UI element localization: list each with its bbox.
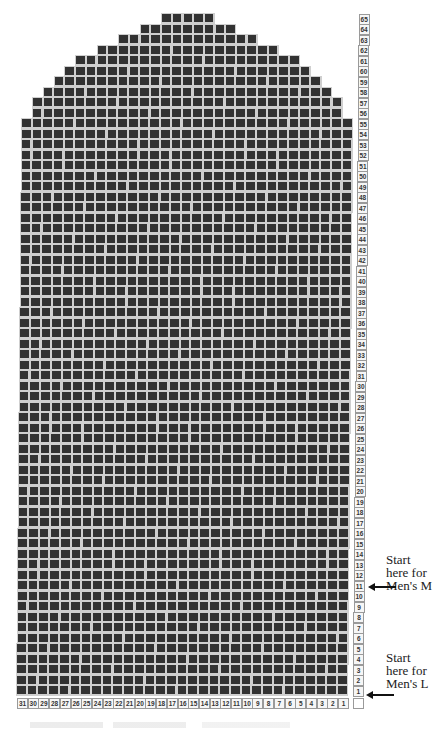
row-number-label: 51 <box>357 161 368 172</box>
stitch-cell <box>201 497 210 505</box>
stitch-cell <box>168 581 177 589</box>
stitch-cell <box>255 350 264 358</box>
stitch-cell <box>290 119 299 127</box>
stitch-cell <box>60 655 69 663</box>
stitch-cell <box>254 476 263 484</box>
stitch-cell <box>38 686 47 694</box>
stitch-cell <box>160 277 169 285</box>
stitch-cell <box>319 424 328 432</box>
stitch-cell <box>224 256 233 264</box>
stitch-cell <box>104 497 113 505</box>
row-number-label: 64 <box>359 24 370 35</box>
stitch-cell <box>182 172 191 180</box>
stitch-cell <box>97 151 106 159</box>
stitch-cell <box>253 655 262 663</box>
stitch-cell <box>244 382 253 390</box>
stitch-cell <box>39 623 48 631</box>
stitch-cell <box>191 382 200 390</box>
stitch-cell <box>162 35 171 43</box>
stitch-cell <box>119 56 128 64</box>
stitch-cell <box>329 508 338 516</box>
stitch-cell <box>168 602 177 610</box>
stitch-cell <box>173 14 182 22</box>
stitch-cell <box>128 287 137 295</box>
stitch-cell <box>125 592 134 600</box>
column-number-label: 14 <box>199 698 210 709</box>
stitch-cell <box>172 151 181 159</box>
stitch-cell <box>30 487 39 495</box>
stitch-cell <box>331 224 340 232</box>
stitch-cell <box>52 413 61 421</box>
stitch-cell <box>338 655 347 663</box>
row-number-label: 15 <box>354 539 365 550</box>
stitch-cell <box>17 665 26 673</box>
stitch-cell <box>307 539 316 547</box>
stitch-cell <box>223 361 232 369</box>
stitch-cell <box>127 392 136 400</box>
column-number-label: 10 <box>242 698 253 709</box>
stitch-cell <box>279 140 288 148</box>
stitch-cell <box>44 98 53 106</box>
stitch-cell <box>116 361 125 369</box>
stitch-cell <box>137 434 146 442</box>
column-number-label: 22 <box>113 698 124 709</box>
stitch-cell <box>135 613 144 621</box>
stitch-cell <box>322 130 331 138</box>
stitch-cell <box>211 592 220 600</box>
stitch-cell <box>332 193 341 201</box>
stitch-cell <box>276 497 285 505</box>
stitch-cell <box>296 550 305 558</box>
stitch-cell <box>256 308 265 316</box>
stitch-cell <box>289 203 298 211</box>
stitch-cell <box>268 98 277 106</box>
stitch-cell <box>321 151 330 159</box>
stitch-cell <box>263 676 272 684</box>
stitch-cell <box>308 497 317 505</box>
stitch-cell <box>33 119 42 127</box>
stitch-cell <box>237 56 246 64</box>
stitch-cell <box>299 287 308 295</box>
stitch-cell <box>215 77 224 85</box>
stitch-cell <box>139 193 148 201</box>
stitch-cell <box>30 413 39 421</box>
row-number-label: 47 <box>357 203 368 214</box>
stitch-cell <box>215 119 224 127</box>
stitch-cell <box>319 382 328 390</box>
stitch-cell <box>65 67 74 75</box>
stitch-cell <box>321 193 330 201</box>
stitch-cell <box>104 592 113 600</box>
stitch-cell <box>115 466 124 474</box>
stitch-cell <box>44 109 53 117</box>
stitch-cell <box>42 298 51 306</box>
stitch-cell <box>205 46 214 54</box>
stitch-cell <box>286 581 295 589</box>
stitch-cell <box>125 550 134 558</box>
stitch-cell <box>199 644 208 652</box>
stitch-cell <box>150 161 159 169</box>
stitch-cell <box>146 665 155 673</box>
stitch-cell <box>341 361 350 369</box>
stitch-cell <box>290 77 299 85</box>
stitch-cell <box>168 592 177 600</box>
stitch-cell <box>117 298 126 306</box>
stitch-cell <box>178 592 187 600</box>
stitch-cell <box>275 581 284 589</box>
stitch-cell <box>253 592 262 600</box>
stitch-cell <box>21 287 30 295</box>
stitch-cell <box>159 382 168 390</box>
stitch-cell <box>168 508 177 516</box>
stitch-cell <box>148 455 157 463</box>
row-number-label: 62 <box>358 45 369 56</box>
stitch-cell <box>138 340 147 348</box>
stitch-cell <box>146 676 155 684</box>
stitch-cell <box>317 634 326 642</box>
stitch-cell <box>116 445 125 453</box>
stitch-cell <box>256 256 265 264</box>
stitch-cell <box>300 182 309 190</box>
stitch-cell <box>127 329 136 337</box>
stitch-cell <box>234 371 243 379</box>
stitch-cell <box>64 182 73 190</box>
stitch-cell <box>298 413 307 421</box>
column-number-label: 17 <box>167 698 178 709</box>
stitch-cell <box>63 308 72 316</box>
